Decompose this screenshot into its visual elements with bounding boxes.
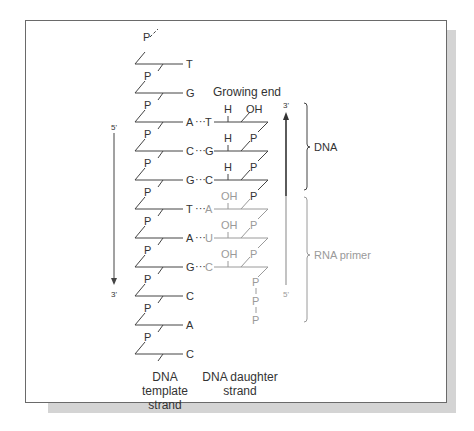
phosphate-label: P [250,248,257,260]
template-base: G [186,174,195,186]
template-base: C [186,145,194,157]
phosphate-label: P [252,295,259,307]
three-prime-label: 3' [283,100,289,112]
h-label: H [224,132,232,144]
oh-label: OH [221,219,238,231]
phosphate-label: P [252,276,259,288]
dna-bracket-label: DNA [314,141,337,153]
rna-base: U [205,232,213,244]
template-strand-caption: DNA template strand [130,370,200,412]
daughter-base: T [205,116,212,128]
template-base: G [186,261,195,273]
oh-label: OH [246,103,263,115]
phosphate-label: P [144,70,151,82]
rna-primer-bracket-label: RNA primer [314,249,371,261]
five-prime-label: 5' [283,289,289,301]
template-base: A [186,116,193,128]
h-label: H [224,161,232,173]
daughter-dna-backbone [214,112,268,190]
template-base: C [186,290,194,302]
phosphate-label: P [144,331,151,343]
phosphate-label: P [144,186,151,198]
growing-end-label: Growing end [213,86,281,98]
phosphate-label: P [144,302,151,314]
daughter-base: C [205,174,213,186]
template-base: T [186,58,193,70]
rna-primer-bracket [304,197,310,322]
template-base: G [186,87,195,99]
template-base: C [186,348,194,360]
three-prime-label: 3' [111,289,117,301]
template-base: A [186,232,193,244]
rna-base: C [205,261,213,273]
five-prime-label: 5' [111,122,117,134]
template-backbone [135,52,183,361]
phosphate-label: P [250,132,257,144]
phosphate-label: P [143,31,150,43]
h-label: H [224,103,232,115]
daughter-base: G [205,145,214,157]
rna-base: A [205,203,212,215]
left-direction-arrow [111,133,117,285]
template-base: A [186,319,193,331]
dna-replication-diagram [0,0,474,431]
daughter-strand-caption: DNA daughter strand [200,370,280,398]
phosphate-label: P [144,244,151,256]
phosphate-label: P [144,99,151,111]
phosphate-label: P [252,314,259,326]
phosphate-label: P [250,190,257,202]
oh-label: OH [221,190,238,202]
phosphate-label: P [144,273,151,285]
phosphate-label: P [144,128,151,140]
right-direction-arrow [283,112,289,285]
phosphate-label: P [250,219,257,231]
dna-bracket [304,103,310,190]
oh-label: OH [221,248,238,260]
phosphate-label: P [144,215,151,227]
template-base: T [186,203,193,215]
phosphate-label: P [250,161,257,173]
phosphate-label: P [144,157,151,169]
